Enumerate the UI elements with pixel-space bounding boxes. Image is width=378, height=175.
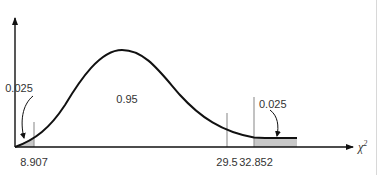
x-axis-label: χ2 xyxy=(357,139,367,154)
lower-critical-label: 8.907 xyxy=(20,156,48,168)
density-curve xyxy=(15,50,297,147)
left-tail-arrow-icon xyxy=(22,96,33,138)
right-tail-arrow-icon xyxy=(270,110,278,136)
upper-critical-label: 32.852 xyxy=(239,156,273,168)
center-area-label: 0.95 xyxy=(116,93,137,105)
right-tail-area-label: 0.025 xyxy=(259,98,287,110)
left-tail-area-label: 0.025 xyxy=(5,82,33,94)
chi-square-chart: 0.025 0.95 0.025 8.907 29.5 32.852 χ2 xyxy=(0,0,378,175)
test-statistic-label: 29.5 xyxy=(216,156,237,168)
right-border xyxy=(376,0,377,175)
